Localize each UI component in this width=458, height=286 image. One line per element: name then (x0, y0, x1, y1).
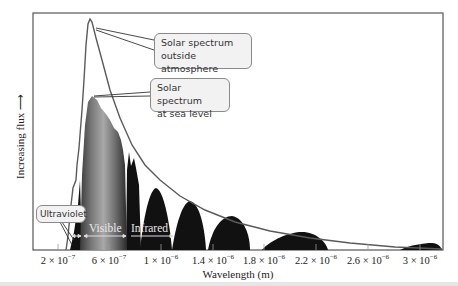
callout-sea-line1: Solar spectrum (157, 81, 223, 107)
callout-ultraviolet: Ultraviolet (36, 205, 86, 223)
x-tick-label: 2 × 10−7 (41, 253, 75, 266)
callout-outside-line2: outside atmosphere (161, 49, 245, 75)
callout-outside-line1: Solar spectrum (161, 36, 245, 49)
visible-label: Visible (89, 222, 122, 234)
x-tick-label: 1.8 × 10−6 (243, 253, 285, 266)
x-tick-label: 3 × 10−6 (403, 253, 437, 266)
ultraviolet-label: Ultraviolet (40, 209, 87, 219)
x-tick-label: 1.4 × 10−6 (192, 253, 234, 266)
x-tick-label: 6 × 10−7 (92, 253, 126, 266)
x-axis-label: Wavelength (m) (203, 268, 274, 280)
bottom-divider (0, 282, 458, 286)
x-tick-label: 2.2 × 10−6 (295, 253, 337, 266)
callout-sea-level: Solar spectrum at sea level (150, 78, 230, 112)
y-axis-label: Increasing flux ⟶ (14, 77, 27, 197)
infrared-label: Infrared (131, 222, 168, 234)
callout-sea-line2: at sea level (157, 107, 223, 120)
x-tick-label: 1 × 10−6 (144, 253, 178, 266)
x-tick-label: 2.6 × 10−6 (347, 253, 389, 266)
callout-outside-atmosphere: Solar spectrum outside atmosphere (154, 33, 252, 69)
